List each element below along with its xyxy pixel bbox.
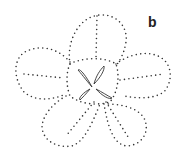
leaf-upper-right — [94, 66, 104, 84]
petal-right-midrib — [120, 74, 164, 80]
panel-label: b — [148, 14, 157, 30]
leaf-upper-left — [78, 70, 92, 87]
petal-bottom-left — [42, 96, 100, 146]
petal-top — [69, 15, 126, 66]
figure-panel: b — [0, 0, 180, 157]
petal-bottom-right — [104, 104, 146, 146]
leaf-lower-right — [96, 89, 112, 99]
petal-bottom-right-midrib — [106, 102, 130, 140]
leaf-lower-left — [80, 89, 90, 100]
petal-left-midrib — [24, 74, 64, 78]
petal-top-midrib — [96, 16, 97, 58]
petal-right — [116, 54, 170, 98]
center-leaves — [78, 66, 112, 100]
petal-bottom-left-midrib — [66, 102, 94, 136]
